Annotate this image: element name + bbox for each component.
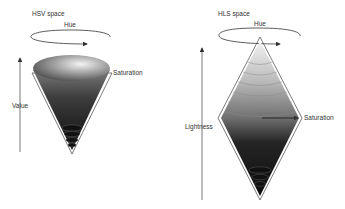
hls-title: HLS space [218,10,250,18]
hsv-cone [32,55,112,154]
hls-saturation-label: Saturation [304,114,334,121]
hue-rotation-arrow-icon [219,28,300,44]
hls-double-cone [218,37,302,200]
hsv-title: HSV space [32,10,65,18]
hsv-hue-label: Hue [64,21,76,28]
hue-rotation-arrow-icon [31,30,110,44]
hls-lightness-label: Lightness [185,123,214,131]
hls-diagram: HLS space Hue Lightness [185,10,334,200]
hsv-diagram: HSV space Hue Value Saturation [12,10,143,154]
color-space-diagram: HSV space Hue Value Saturation HLS space… [0,0,345,209]
hsv-value-label: Value [12,102,29,109]
hsv-saturation-label: Saturation [113,69,143,76]
hls-hue-label: Hue [254,20,266,27]
